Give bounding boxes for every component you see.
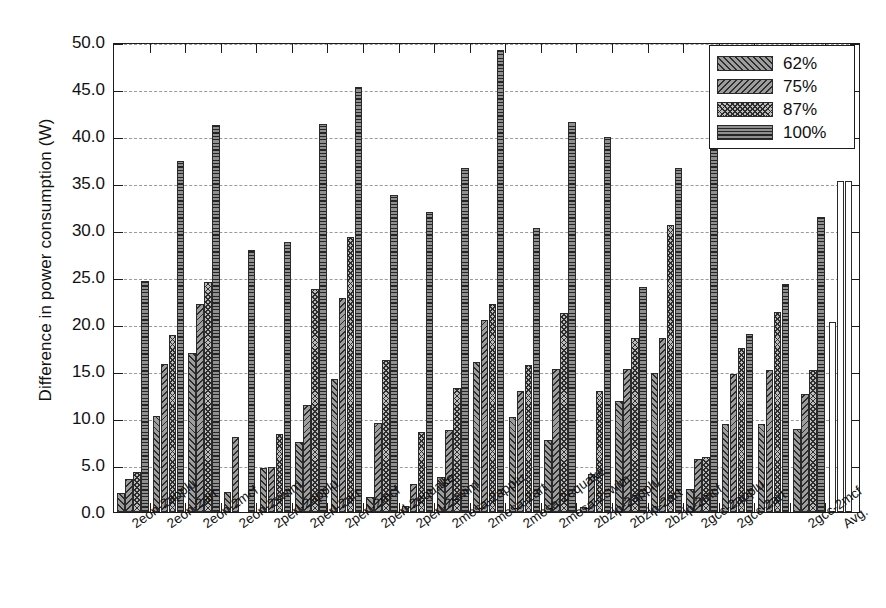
bar xyxy=(793,429,800,512)
bar xyxy=(153,416,160,512)
bar xyxy=(639,287,646,512)
x-axis-tick-label: 2mesa-2art xyxy=(485,519,494,531)
bar xyxy=(196,304,203,512)
bar xyxy=(402,506,409,512)
legend-item: 100% xyxy=(717,121,847,144)
bar xyxy=(303,405,310,512)
bar xyxy=(232,437,239,512)
x-axis-tick-label: 2gcc-2mcf xyxy=(805,519,814,531)
bar xyxy=(509,417,516,512)
bar xyxy=(453,388,460,512)
x-axis-tick-label: 2gcc-2art xyxy=(734,519,743,531)
legend-swatch-87pct xyxy=(717,102,773,117)
x-axis-tick-label: 2eon-2swim xyxy=(236,519,245,531)
bar xyxy=(675,168,682,512)
bar xyxy=(817,217,824,512)
bar xyxy=(667,225,674,512)
legend-item: 87% xyxy=(717,98,847,121)
bar xyxy=(177,161,184,512)
bar xyxy=(533,228,540,512)
bar xyxy=(615,401,622,512)
bar xyxy=(366,497,373,512)
x-axis-tick-label: 2eon-2art xyxy=(164,519,173,531)
bar xyxy=(659,338,666,512)
bar xyxy=(224,492,231,512)
bar xyxy=(604,137,611,512)
figure-root: Difference in power consumption (W) 0.05… xyxy=(0,0,886,608)
bar xyxy=(710,131,717,512)
bar xyxy=(445,430,452,512)
bar xyxy=(204,282,211,512)
bar xyxy=(390,195,397,512)
bar xyxy=(117,493,124,512)
x-axis-tick-label: 2mesa-2applu xyxy=(449,519,458,531)
bar xyxy=(580,507,587,512)
bar xyxy=(489,304,496,512)
y-axis-tick-label: 50.0 xyxy=(45,34,105,51)
y-axis-tick-label: 45.0 xyxy=(45,81,105,98)
bar xyxy=(418,432,425,512)
bar xyxy=(382,360,389,512)
bar xyxy=(347,237,354,512)
x-axis-tick-label: 2bzip-2art xyxy=(627,519,636,531)
bar xyxy=(686,489,693,512)
bar xyxy=(560,313,567,512)
bar xyxy=(339,298,346,512)
bar xyxy=(596,391,603,512)
bar xyxy=(410,484,417,512)
bar xyxy=(188,353,195,512)
x-axis-tick-label: 2bzip-2applu xyxy=(591,519,600,531)
legend-label: 62% xyxy=(783,55,817,72)
y-axis-tick-label: 0.0 xyxy=(45,504,105,521)
x-axis-tick-label: 2gcc-2applu xyxy=(698,519,707,531)
legend-swatch-75pct xyxy=(717,79,773,94)
bar xyxy=(588,474,595,512)
bar xyxy=(544,440,551,512)
bar xyxy=(730,374,737,512)
legend-item: 62% xyxy=(717,52,847,75)
bar xyxy=(161,364,168,512)
bar xyxy=(248,250,255,512)
bar xyxy=(481,320,488,512)
bar xyxy=(374,423,381,512)
bar xyxy=(722,424,729,512)
bar xyxy=(260,468,267,512)
x-axis-tick-label: 2mesa-2equake xyxy=(520,519,529,531)
x-axis-tick-label: 2perl-2mcf xyxy=(342,519,351,531)
bar xyxy=(319,124,326,512)
y-axis-tick-label: 35.0 xyxy=(45,175,105,192)
bar xyxy=(837,181,844,512)
y-axis-tick-label: 25.0 xyxy=(45,269,105,286)
x-axis-tick-label: Avg. xyxy=(840,519,849,531)
bar xyxy=(809,370,816,512)
x-axis-tick-label: 2perl-2art xyxy=(307,519,316,531)
legend-label: 87% xyxy=(783,101,817,118)
bar xyxy=(437,477,444,512)
bar xyxy=(517,391,524,512)
y-axis-tick-label: 20.0 xyxy=(45,316,105,333)
x-axis-tick-label: 2bzip-2mcf xyxy=(662,519,671,531)
bar xyxy=(268,467,275,512)
bar xyxy=(845,181,852,512)
bar xyxy=(829,322,836,512)
bar xyxy=(133,472,140,512)
bar xyxy=(801,394,808,512)
bar xyxy=(631,338,638,512)
bar xyxy=(774,312,781,512)
bar xyxy=(212,125,219,512)
bar xyxy=(141,281,148,512)
bar xyxy=(738,348,745,513)
bar xyxy=(295,442,302,512)
bar xyxy=(694,459,701,512)
y-axis-tick-label: 30.0 xyxy=(45,222,105,239)
x-axis-tick-label: 2perl-2swim xyxy=(413,519,422,531)
x-axis-tick-label: 2mesa-2swim xyxy=(556,519,565,531)
bar xyxy=(651,373,658,512)
bar xyxy=(623,369,630,512)
y-axis-tick-label: 10.0 xyxy=(45,410,105,427)
bar xyxy=(473,362,480,512)
bar xyxy=(125,479,132,512)
x-axis-tick-label: 2perl-2equake xyxy=(378,519,387,531)
bar xyxy=(276,434,283,512)
legend-swatch-100pct xyxy=(717,125,773,140)
